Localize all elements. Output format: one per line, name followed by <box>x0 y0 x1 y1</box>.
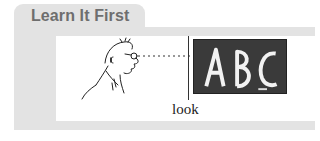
person-looking-icon <box>70 35 190 100</box>
divider-line <box>188 36 189 100</box>
chalkboard-icon <box>193 39 287 94</box>
section-title: Learn It First <box>31 7 129 25</box>
caption-look: look <box>172 101 199 118</box>
